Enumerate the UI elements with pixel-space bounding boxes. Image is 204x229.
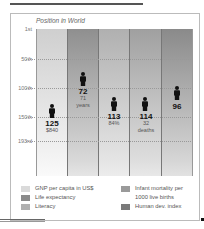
y-tick-label: 1st <box>10 26 32 32</box>
legend-label: Literacy <box>35 203 55 209</box>
legend-label: 1000 live births <box>135 194 174 200</box>
person-icon <box>45 104 59 118</box>
gridline <box>26 88 193 89</box>
gridline <box>26 59 193 60</box>
legend-label: Life expectancy <box>35 194 75 200</box>
person-icon <box>170 86 184 100</box>
bottom-rule <box>0 219 45 220</box>
person-icon <box>138 97 152 111</box>
value-label-literacy: 113 84% <box>98 113 130 127</box>
legend-swatch-gnp <box>21 186 30 192</box>
top-rule <box>10 3 143 5</box>
value-label-life-expectancy: 72 71 years <box>67 88 99 109</box>
legend-label: GNP per capita in US$ <box>35 185 94 191</box>
gridline <box>26 141 193 142</box>
column-gnp <box>36 29 68 176</box>
person-icon <box>76 72 90 86</box>
end-mark <box>201 218 204 221</box>
legend-swatch-infant-mortality <box>121 186 130 192</box>
legend-swatch-literacy <box>21 204 30 210</box>
legend-label: Human dev. index <box>135 203 181 209</box>
value-label-infant-mortality: 114 32 deaths <box>130 113 162 134</box>
legend-label: Infant mortality per <box>135 185 183 191</box>
person-icon <box>107 97 121 111</box>
value-label-gnp: 125 $840 <box>36 120 68 134</box>
bottom-rule <box>0 221 45 222</box>
legend-swatch-life-expectancy <box>21 195 30 201</box>
legend-swatch-human-dev-index <box>121 204 130 210</box>
value-label-human-dev-index: 96 <box>161 103 193 110</box>
chart-title: Position in World <box>36 17 85 24</box>
